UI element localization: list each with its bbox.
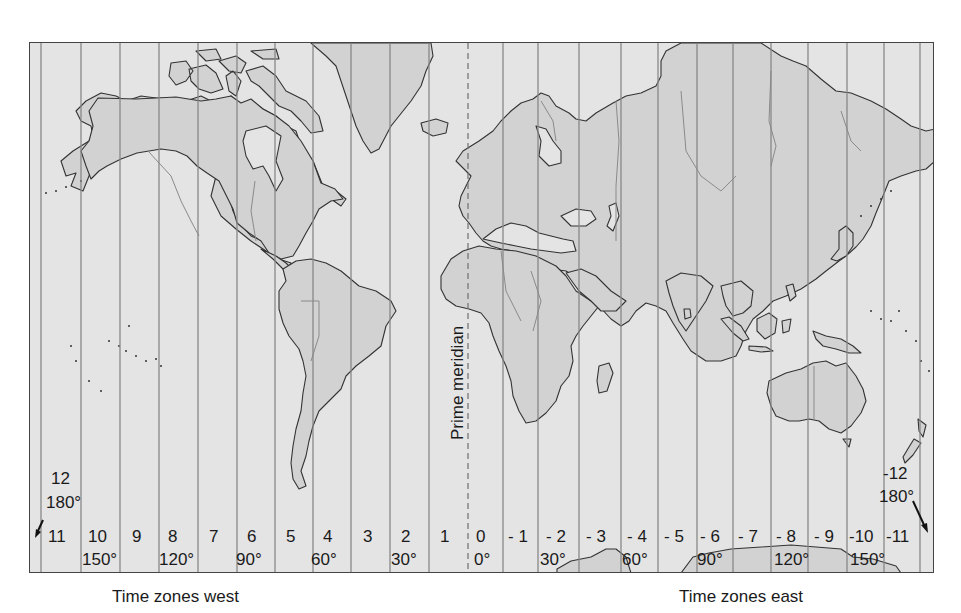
degree-label: 150° — [850, 551, 885, 568]
zone-label: 0 — [476, 528, 485, 545]
zone-label: - 6 — [700, 528, 720, 545]
zone-label: - 1 — [508, 528, 528, 545]
degree-label: 60° — [311, 551, 337, 568]
zone-label: 6 — [247, 528, 256, 545]
degree-label: 120° — [774, 551, 809, 568]
dateline-east-degrees: 180° — [879, 488, 914, 505]
degree-label: 60° — [622, 551, 648, 568]
iceland — [421, 119, 448, 136]
zone-label: - 5 — [664, 528, 684, 545]
degree-label: 30° — [540, 551, 566, 568]
zone-label: 7 — [209, 528, 218, 545]
dateline-arrow-east — [913, 501, 925, 527]
zone-label: - 8 — [776, 528, 796, 545]
zone-label: 3 — [363, 528, 372, 545]
dateline-west-zone: 12 — [51, 470, 70, 487]
dateline-east-zone: -12 — [883, 465, 908, 482]
degree-label: 120° — [159, 551, 194, 568]
degree-label: 0° — [474, 551, 490, 568]
zone-label: 2 — [401, 528, 410, 545]
prime-meridian-label: Prime meridian — [448, 326, 468, 440]
south-america — [279, 259, 396, 489]
zone-label: 4 — [323, 528, 332, 545]
zone-label: - 9 — [814, 528, 834, 545]
new-guinea — [813, 331, 861, 353]
degree-label: 90° — [697, 551, 723, 568]
zone-label: 11 — [48, 528, 66, 545]
zone-label: -10 — [849, 528, 874, 545]
zone-label: - 2 — [546, 528, 566, 545]
arrowhead-west — [35, 529, 41, 538]
zone-label: - 3 — [586, 528, 606, 545]
greenland — [311, 43, 433, 153]
degree-label: 30° — [391, 551, 417, 568]
time-zone-map — [29, 42, 934, 573]
madagascar — [597, 363, 613, 393]
zone-label: 9 — [132, 528, 141, 545]
degree-label: 150° — [82, 551, 117, 568]
zone-label: 5 — [286, 528, 295, 545]
degree-label: 90° — [236, 551, 262, 568]
new-zealand — [903, 419, 926, 463]
caption-time-zones-east: Time zones east — [679, 587, 803, 607]
zone-label: -11 — [886, 528, 909, 545]
borneo — [757, 313, 777, 339]
zone-label: 10 — [88, 528, 107, 545]
australia — [767, 361, 866, 433]
arrowhead-east — [921, 523, 928, 533]
sulawesi — [782, 319, 791, 333]
sri-lanka — [684, 309, 691, 319]
caption-time-zones-west: Time zones west — [112, 587, 239, 607]
zone-label: 8 — [168, 528, 177, 545]
zone-label: - 4 — [627, 528, 647, 545]
world-map-graphic — [30, 43, 934, 573]
dateline-west-degrees: 180° — [46, 494, 81, 511]
zone-label: - 7 — [738, 528, 758, 545]
zone-label: 1 — [440, 528, 449, 545]
java — [749, 346, 773, 352]
landmasses — [61, 43, 934, 573]
